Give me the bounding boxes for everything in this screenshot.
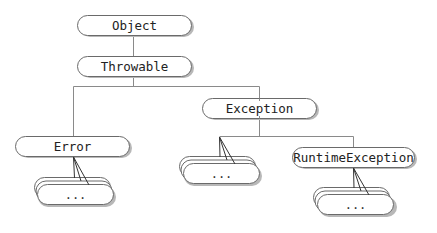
node-exception: Exception (203, 99, 320, 121)
node-runtime-exception-label: RuntimeException (293, 150, 413, 165)
node-object: Object (78, 16, 195, 38)
node-error-label: Error (54, 139, 92, 154)
stack-runtime-exception-subclasses: ... (314, 168, 398, 217)
exception-hierarchy-diagram: Object Throwable Exception Error Runtime… (0, 0, 437, 233)
node-object-label: Object (112, 18, 157, 33)
node-exception-label: Exception (226, 101, 294, 116)
stack-error-subclasses: ... (35, 157, 117, 207)
node-error: Error (16, 137, 133, 159)
connectors (74, 35, 354, 147)
stack-runtime-exception-label: ... (345, 198, 367, 212)
stack-exception-subclasses: ... (180, 137, 263, 186)
node-runtime-exception: RuntimeException (293, 148, 418, 170)
stack-error-label: ... (65, 188, 87, 202)
node-throwable: Throwable (78, 57, 195, 79)
stack-exception-label: ... (211, 167, 233, 181)
node-throwable-label: Throwable (101, 59, 169, 74)
